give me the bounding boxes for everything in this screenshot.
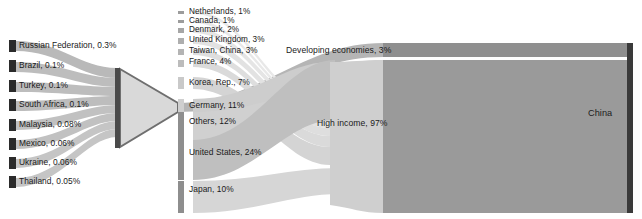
sink-node-china [627,43,633,213]
source-node-ukraine [9,157,16,169]
sink-group [383,43,633,213]
mid-label-united-states: United States, 24% [189,148,262,156]
source-label-mexico: Mexico, 0.06% [19,139,75,147]
mid-node-group [178,11,184,213]
mid-label-canada: Canada, 1% [189,17,235,25]
mid-node-others [178,112,184,142]
mid-node-japan [178,181,184,213]
aggregate-label-high-income: High income, 97% [317,119,388,128]
mid-node-france [178,60,184,67]
source-node-malaysia [9,119,16,131]
mid-label-denmark: Denmark, 2% [189,26,239,34]
funnel-group [115,68,178,148]
source-label-malaysia: Malaysia, 0.08% [19,120,81,128]
source-node-brazil [9,60,16,72]
source-node-turkey [9,80,16,92]
source-label-ukraine: Ukraine, 0.06% [19,158,77,166]
aggregate-label-developing-economies: Developing economies, 3% [286,46,391,55]
source-label-thailand: Thailand, 0.05% [19,177,80,185]
mid-label-united-kingdom: United Kingdom, 3% [189,36,265,44]
mid-node-united-states [178,140,184,180]
sink-label-china: China [588,109,612,118]
source-node-mexico [9,138,16,150]
source-node-thailand [9,176,16,188]
china-block [383,60,627,213]
source-label-turkey: Turkey, 0.1% [19,81,68,89]
mid-label-others: Others, 12% [189,117,236,125]
mid-label-germany: Germany, 11% [189,101,244,109]
funnel-left-node [115,68,120,148]
sankey-canvas [0,0,642,219]
developing-economies-block [383,43,627,57]
source-node-south-africa [9,99,16,111]
source-label-brazil: Brazil, 0.1% [19,61,64,69]
mid-node-canada [178,20,184,23]
mid-label-korea-rep: Korea, Rep., 7% [189,79,250,87]
source-node-group [9,40,16,188]
sankey-diagram: Russian Federation, 0.3% Brazil, 0.1% Tu… [0,0,642,219]
mid-node-united-kingdom [178,38,184,44]
mid-label-taiwan-china: Taiwan, China, 3% [189,47,258,55]
source-label-russian-federation: Russian Federation, 0.3% [19,41,117,49]
mid-label-france: France, 4% [189,58,231,66]
high-income-flow-group [330,60,383,213]
source-label-south-africa: South Africa, 0.1% [19,100,89,108]
mid-node-taiwan-china [178,49,184,55]
mid-node-netherlands [178,11,184,14]
mid-node-denmark [178,28,184,33]
funnel-body [120,69,178,147]
mid-label-netherlands: Netherlands, 1% [189,8,250,16]
mid-label-japan: Japan, 10% [189,185,234,193]
mid-node-korea-rep [178,77,184,89]
source-node-russian-federation [9,40,16,52]
flow-high-income-to-china [330,60,383,213]
